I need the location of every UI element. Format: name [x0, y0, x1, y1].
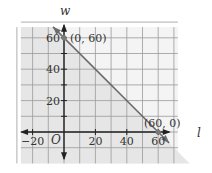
x-tick-label: 60 [151, 135, 165, 148]
data-point [156, 129, 161, 134]
y-tick-label: 60 [46, 32, 60, 45]
x-tick-label: −20 [21, 135, 44, 148]
y-tick-label: 20 [46, 95, 60, 108]
x-tick-label: 20 [88, 135, 102, 148]
y-tick-label: 40 [46, 63, 60, 76]
x-tick-label: 40 [120, 135, 134, 148]
point-label: (0, 60) [70, 32, 107, 45]
x-axis-label: l [197, 126, 201, 140]
data-point [61, 35, 66, 40]
y-axis-label: w [60, 4, 71, 18]
chart: −20204060204060 (0, 60)(60, 0) l w O [0, 0, 212, 173]
origin-label: O [51, 133, 61, 147]
point-label: (60, 0) [144, 117, 181, 130]
